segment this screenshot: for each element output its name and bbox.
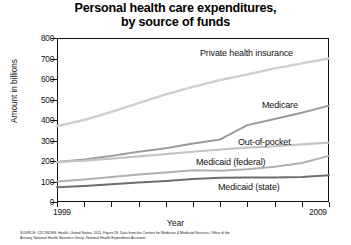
x-axis-tick-mark	[329, 202, 330, 207]
x-axis-tick-mark	[84, 202, 85, 207]
source-note-line-2: Actuary, National Health Statistics Grou…	[20, 236, 345, 241]
x-axis-tick-label-start: 1999	[53, 207, 71, 217]
x-axis-tick-mark	[302, 202, 303, 207]
x-axis-tick-mark	[193, 202, 194, 207]
series-label-private-health-insurance: Private health insurance	[200, 48, 293, 58]
x-axis-tick-mark	[166, 202, 167, 207]
y-axis-title: Amount in billions	[9, 31, 19, 151]
page-title: Personal health care expenditures, by so…	[0, 2, 351, 29]
x-axis-title: Year	[0, 218, 351, 228]
series-label-medicare: Medicare	[262, 100, 298, 110]
plot-area	[57, 38, 329, 202]
x-axis-tick-mark	[139, 202, 140, 207]
series-label-out-of-pocket: Out-of-pocket	[238, 137, 291, 147]
title-line-2: by source of funds	[0, 16, 351, 30]
series-label-medicaid-federal: Medicaid (federal)	[196, 157, 265, 167]
title-line-1: Personal health care expenditures,	[75, 1, 277, 15]
y-axis-tick-labels: 8007006005004003002001000	[24, 38, 54, 202]
x-axis-tick-mark	[220, 202, 221, 207]
x-axis-tick-mark	[247, 202, 248, 207]
x-axis-tick-label-end: 2009	[309, 207, 327, 217]
series-label-medicaid-state: Medicaid (state)	[218, 182, 280, 192]
chart-page: Personal health care expenditures, by so…	[0, 0, 351, 245]
x-axis-tick-mark	[275, 202, 276, 207]
source-note: SOURCE: CDC/NCHS, Health, United States,…	[20, 231, 345, 240]
x-axis-tick-mark	[111, 202, 112, 207]
